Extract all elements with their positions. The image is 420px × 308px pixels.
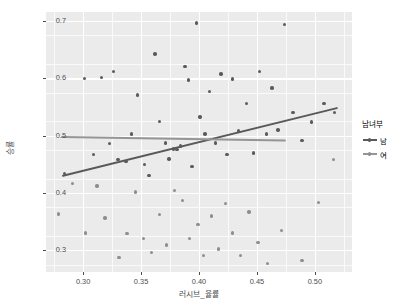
data-point <box>245 102 248 105</box>
data-point <box>147 174 150 177</box>
data-point <box>219 72 222 75</box>
data-point <box>210 214 213 217</box>
data-point <box>247 210 250 213</box>
data-point <box>225 153 228 156</box>
data-point <box>195 21 198 24</box>
data-point <box>198 115 201 118</box>
data-point <box>190 165 193 168</box>
data-point <box>164 141 167 144</box>
data-point <box>71 182 74 185</box>
x-axis-tick-mark <box>199 272 200 275</box>
data-point <box>153 52 156 55</box>
legend-entry-남: 남 <box>362 133 418 147</box>
data-point <box>187 78 190 81</box>
data-point <box>224 202 227 205</box>
data-point <box>175 148 178 151</box>
legend-entry-여: 여 <box>362 147 418 161</box>
data-point <box>237 129 240 132</box>
data-point <box>95 184 98 187</box>
y-axis-tick-label: 0.6 <box>56 73 66 82</box>
data-point <box>231 231 234 234</box>
data-point <box>256 241 259 244</box>
x-axis-tick-mark <box>315 272 316 275</box>
data-point <box>103 216 106 219</box>
legend-entries: 남여 <box>362 133 418 161</box>
data-point <box>258 70 261 73</box>
data-point <box>125 232 128 235</box>
data-point <box>134 190 137 193</box>
x-axis-tick-label: 0.50 <box>308 277 322 286</box>
gridline-minor-vertical <box>170 12 171 272</box>
data-point <box>270 86 273 89</box>
x-axis-tick-label: 0.35 <box>134 277 148 286</box>
data-point <box>317 201 320 204</box>
data-point <box>291 111 294 114</box>
gridline-major-horizontal <box>46 193 352 194</box>
legend-entry-label: 남 <box>380 135 387 146</box>
gridline-minor-vertical <box>54 12 55 272</box>
legend: 남녀부 남여 <box>362 118 418 161</box>
data-point <box>142 237 145 240</box>
data-point <box>276 128 279 131</box>
data-point <box>167 157 170 160</box>
x-axis-tick-mark <box>141 272 142 275</box>
legend-key-point <box>368 138 371 141</box>
legend-entry-label: 여 <box>380 149 387 160</box>
data-point <box>179 144 182 147</box>
y-axis-tick-label: 0.4 <box>56 188 66 197</box>
y-axis-tick-mark <box>43 250 46 251</box>
x-axis-tick-mark <box>257 272 258 275</box>
data-point <box>112 70 115 73</box>
gridline-minor-vertical <box>228 12 229 272</box>
x-axis-tick-label: 0.40 <box>192 277 206 286</box>
data-point <box>150 251 153 254</box>
data-point <box>165 243 168 246</box>
y-axis-tick-mark <box>43 21 46 22</box>
gridline-major-horizontal <box>46 21 352 22</box>
data-point <box>231 77 234 80</box>
data-point <box>214 141 217 144</box>
legend-key-swatch <box>362 147 377 161</box>
data-point <box>57 212 60 215</box>
y-axis-tick-label: 0.3 <box>56 245 66 254</box>
data-point <box>92 153 95 156</box>
gridline-minor-vertical <box>286 12 287 272</box>
data-point <box>188 237 191 240</box>
legend-title: 남녀부 <box>362 118 418 129</box>
data-point <box>181 199 184 202</box>
x-axis-tick-label: 0.30 <box>76 277 90 286</box>
legend-key-point <box>368 152 371 155</box>
data-point <box>300 139 303 142</box>
data-point <box>322 102 325 105</box>
x-axis-tick-label: 0.45 <box>250 277 264 286</box>
y-axis-tick-mark <box>43 78 46 79</box>
data-point <box>84 231 87 234</box>
data-point <box>310 120 313 123</box>
plot-panel <box>46 12 352 272</box>
gridline-minor-vertical <box>112 12 113 272</box>
y-axis-tick-label: 0.7 <box>56 16 66 25</box>
data-point <box>252 151 255 154</box>
data-point <box>196 223 199 226</box>
data-point <box>183 65 186 68</box>
data-point <box>239 254 242 257</box>
gridline-major-horizontal <box>46 78 352 79</box>
gridline-major-horizontal <box>46 250 352 251</box>
gridline-major-vertical <box>257 12 258 272</box>
data-point <box>143 163 146 166</box>
gridline-minor-vertical <box>344 12 345 272</box>
x-axis-tick-mark <box>83 272 84 275</box>
gridline-major-vertical <box>315 12 316 272</box>
y-axis-tick-mark <box>43 136 46 137</box>
data-point <box>202 254 205 257</box>
x-axis-title: 러시브_율률 <box>46 288 352 299</box>
data-point <box>136 93 139 96</box>
legend-key-swatch <box>362 133 377 147</box>
data-point <box>332 158 335 161</box>
data-point <box>117 256 120 259</box>
data-point <box>108 142 111 145</box>
data-point <box>203 132 206 135</box>
y-axis-tick-mark <box>43 193 46 194</box>
data-point <box>333 111 336 114</box>
data-point <box>124 160 127 163</box>
